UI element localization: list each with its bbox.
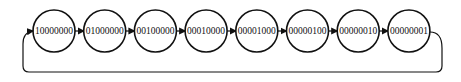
state-node: 00100000 [134, 10, 176, 52]
state-node: 00010000 [185, 10, 227, 52]
state-node: 00000001 [388, 10, 430, 52]
state-node: 00001000 [236, 10, 278, 52]
state-node: 00000100 [287, 10, 329, 52]
state-label: 10000000 [35, 26, 73, 36]
state-label: 00100000 [136, 26, 174, 36]
state-node: 00000010 [337, 10, 379, 52]
state-node: 10000000 [33, 10, 75, 52]
state-label: 00001000 [238, 26, 276, 36]
state-label: 00000010 [339, 26, 377, 36]
state-label: 01000000 [86, 26, 124, 36]
state-label: 00000100 [289, 26, 327, 36]
state-label: 00010000 [187, 26, 225, 36]
state-node: 01000000 [84, 10, 126, 52]
ring-counter-diagram: 1000000001000000001000000001000000001000… [0, 0, 461, 82]
state-label: 00000001 [390, 26, 428, 36]
